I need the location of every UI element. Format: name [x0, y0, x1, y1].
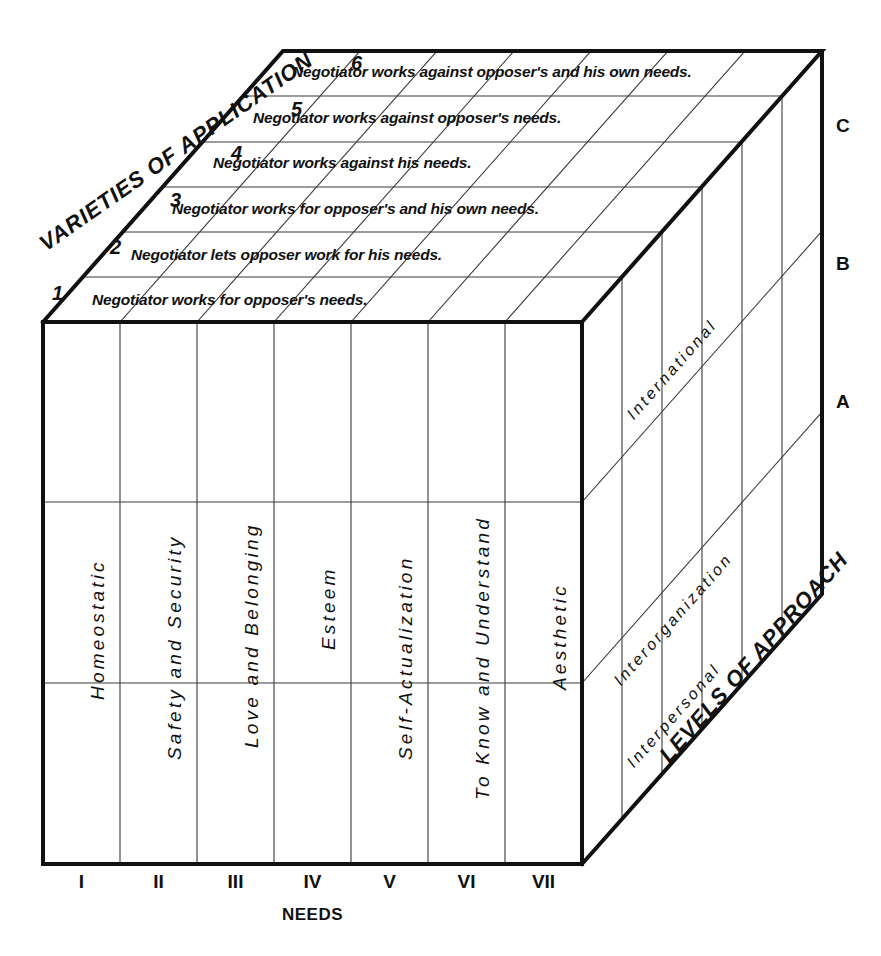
cube-diagram: 1 2 3 4 5 6 Negotiator works for opposer… — [0, 0, 881, 956]
needs-tick-3: III — [197, 872, 274, 891]
need-name-to-know-and-understand: To Know and Understand — [473, 516, 492, 800]
variety-number-2: 2 — [110, 237, 121, 257]
variety-statement-3: Negotiator works for opposer's and his o… — [172, 201, 539, 217]
level-tick-b: B — [836, 254, 850, 273]
need-name-homeostatic: Homeostatic — [88, 559, 107, 700]
variety-statement-6: Negotiator works against opposer's and h… — [292, 64, 692, 80]
level-tick-a: A — [836, 392, 850, 411]
variety-statement-4: Negotiator works against his needs. — [213, 155, 471, 171]
needs-axis-caption: NEEDS — [43, 906, 582, 923]
need-name-love-and-belonging: Love and Belonging — [242, 522, 261, 748]
needs-tick-7: VII — [505, 872, 582, 891]
needs-tick-4: IV — [274, 872, 351, 891]
variety-statement-1: Negotiator works for opposer's needs. — [92, 292, 367, 308]
variety-statement-2: Negotiator lets opposer work for his nee… — [131, 247, 442, 263]
need-name-esteem: Esteem — [319, 566, 338, 650]
needs-tick-2: II — [120, 872, 197, 891]
needs-tick-6: VI — [428, 872, 505, 891]
need-name-self-actualization: Self-Actualization — [396, 556, 415, 760]
need-name-safety-and-security: Safety and Security — [165, 534, 184, 760]
front-face-row-lines — [43, 502, 582, 683]
needs-tick-1: I — [43, 872, 120, 891]
variety-number-1: 1 — [52, 283, 63, 303]
needs-tick-5: V — [351, 872, 428, 891]
level-tick-c: C — [836, 116, 850, 135]
cube-wireframe — [0, 0, 881, 956]
variety-statement-5: Negotiator works against opposer's needs… — [253, 110, 561, 126]
need-name-aesthetic: Aesthetic — [550, 583, 569, 690]
